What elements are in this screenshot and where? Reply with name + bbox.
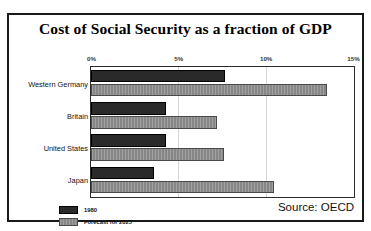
x-axis-tick-label: 0% [87, 55, 96, 62]
x-axis-tick-labels: 0%5%10%15% [9, 55, 362, 66]
legend-swatch-1980-icon [59, 206, 78, 214]
category-label: Japan [10, 176, 88, 185]
plot-inner [91, 67, 354, 197]
bar [91, 148, 224, 161]
bar [91, 134, 166, 147]
category-label: Western Germany [10, 79, 88, 88]
plot-area [90, 66, 355, 198]
legend-label-2025: Forecast for 2025 [84, 219, 132, 225]
bar [91, 167, 154, 180]
bar [91, 84, 327, 97]
category-label: Britain [10, 111, 88, 120]
category-label: United States [10, 144, 88, 153]
bar [91, 181, 274, 194]
x-axis-tick-label: 15% [347, 55, 359, 62]
chart-legend: 1980 Forecast for 2025 [59, 204, 209, 228]
chart-title: Cost of Social Security as a fraction of… [9, 20, 362, 38]
y-axis-category-labels: Western GermanyBritainUnited StatesJapan [9, 66, 88, 198]
bar [91, 70, 225, 83]
bar [91, 102, 166, 115]
legend-label-1980: 1980 [84, 207, 97, 213]
legend-item: Forecast for 2025 [59, 216, 209, 227]
legend-item: 1980 [59, 204, 209, 215]
x-axis-tick-label: 5% [174, 55, 183, 62]
x-axis-tick-label: 10% [260, 55, 272, 62]
bar [91, 116, 217, 129]
legend-swatch-2025-icon [59, 218, 78, 226]
source-note: Source: OECD [278, 201, 354, 213]
chart-card: Cost of Social Security as a fraction of… [7, 13, 364, 222]
